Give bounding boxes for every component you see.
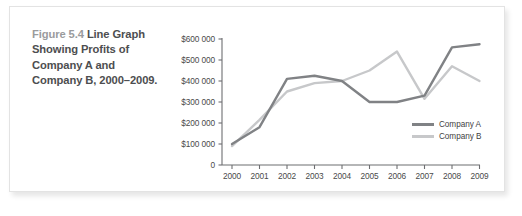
legend-swatch-company-b	[412, 135, 434, 138]
chart-legend: Company A Company B	[412, 118, 481, 142]
x-axis-tick-label: 2008	[438, 171, 466, 181]
x-axis-tick-label: 2006	[383, 171, 411, 181]
x-axis-tick-label: 2001	[246, 171, 274, 181]
y-axis-tick-label: $600 000	[165, 34, 215, 44]
x-axis-tick-label: 2004	[328, 171, 356, 181]
y-axis-tick-label: $100 000	[165, 139, 215, 149]
x-axis-tick-label: 2007	[411, 171, 439, 181]
legend-item-company-b: Company B	[412, 130, 481, 142]
legend-label-company-b: Company B	[439, 132, 481, 141]
x-axis-tick-label: 2009	[466, 171, 494, 181]
figure-number: Figure 5.4	[32, 28, 84, 40]
x-axis-tick-label: 2002	[273, 171, 301, 181]
x-axis-tick-label: 2000	[218, 171, 246, 181]
x-axis-tick-label: 2005	[356, 171, 384, 181]
y-axis-tick-label: $200 000	[165, 118, 215, 128]
y-axis-tick-label: $400 000	[165, 76, 215, 86]
y-axis-tick-label: $300 000	[165, 97, 215, 107]
x-axis-tick-label: 2003	[301, 171, 329, 181]
legend-label-company-a: Company A	[439, 120, 481, 129]
y-axis-tick-label: 0	[165, 160, 215, 170]
figure-card: Figure 5.4 Line Graph Showing Profits of…	[9, 6, 505, 192]
legend-item-company-a: Company A	[412, 118, 481, 130]
legend-swatch-company-a	[412, 123, 434, 126]
line-chart: Company A Company B 0$100 000$200 000$30…	[165, 23, 495, 188]
y-axis-tick-label: $500 000	[165, 55, 215, 65]
figure-caption: Figure 5.4 Line Graph Showing Profits of…	[32, 27, 164, 89]
